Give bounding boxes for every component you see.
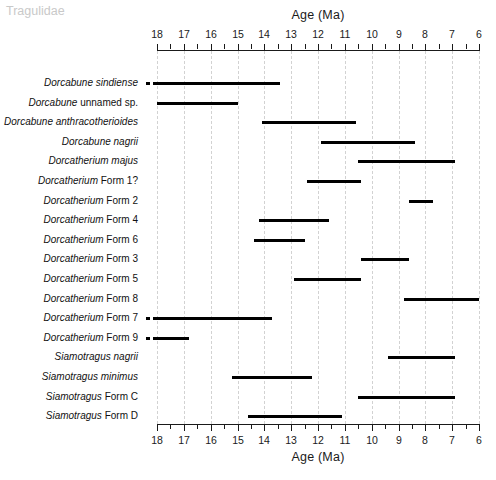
taxon-range-row: Dorcatherium Form 1? bbox=[0, 172, 496, 190]
taxon-range-row: Siamotragus minimus bbox=[0, 368, 496, 386]
plot-area: Dorcabune sindienseDorcabune unnamed sp.… bbox=[0, 51, 496, 424]
axis-tick-minor bbox=[251, 44, 252, 49]
taxon-range-row: Dorcatherium Form 5 bbox=[0, 270, 496, 288]
axis-tick-label: 13 bbox=[285, 28, 297, 40]
range-bar bbox=[404, 298, 479, 301]
taxon-range-row: Dorcatherium Form 3 bbox=[0, 250, 496, 268]
tick-labels-bottom: 1817161514131211109876 bbox=[0, 434, 496, 448]
axis-tick bbox=[399, 424, 400, 431]
range-bar bbox=[321, 141, 415, 144]
taxon-range-row: Siamotragus Form D bbox=[0, 407, 496, 425]
taxon-label: Dorcabune anthracotherioides bbox=[0, 113, 138, 131]
axis-tick bbox=[238, 424, 239, 431]
taxon-label: Dorcatherium Form 1? bbox=[0, 172, 138, 190]
taxon-range-row: Siamotragus Form C bbox=[0, 388, 496, 406]
axis-tick-label: 8 bbox=[422, 434, 428, 446]
axis-tick bbox=[479, 44, 480, 51]
axis-tick-label: 11 bbox=[340, 28, 351, 40]
taxon-label: Siamotragus nagrii bbox=[0, 348, 138, 366]
axis-tick-minor bbox=[197, 44, 198, 49]
range-bar bbox=[157, 317, 272, 320]
axis-tick bbox=[264, 424, 265, 431]
axis-tick-label: 17 bbox=[178, 434, 190, 446]
range-bar bbox=[157, 337, 189, 340]
range-bar bbox=[248, 415, 342, 418]
tick-labels-top: 1817161514131211109876 bbox=[0, 28, 496, 42]
range-bar bbox=[262, 121, 356, 124]
axis-tick-label: 17 bbox=[178, 28, 190, 40]
axis-tick-minor bbox=[385, 44, 386, 49]
axis-tick bbox=[479, 424, 480, 431]
axis-tick-label: 15 bbox=[232, 28, 244, 40]
taxon-label: Dorcabune unnamed sp. bbox=[0, 94, 138, 112]
taxon-label: Dorcatherium Form 3 bbox=[0, 250, 138, 268]
taxon-label: Dorcabune nagrii bbox=[0, 133, 138, 151]
taxon-range-row: Siamotragus nagrii bbox=[0, 348, 496, 366]
axis-tick-minor bbox=[466, 44, 467, 49]
taxon-range-row: Dorcabune sindiense bbox=[0, 74, 496, 92]
range-bar bbox=[361, 258, 409, 261]
axis-tick-label: 18 bbox=[151, 434, 163, 446]
range-bar bbox=[254, 239, 305, 242]
axis-tick-label: 11 bbox=[340, 434, 351, 446]
taxon-range-row: Dorcatherium Form 2 bbox=[0, 192, 496, 210]
axis-tick-label: 16 bbox=[205, 28, 217, 40]
range-bar bbox=[358, 396, 455, 399]
axis-tick bbox=[345, 424, 346, 431]
taxon-range-row: Dorcatherium Form 6 bbox=[0, 231, 496, 249]
axis-tick-label: 7 bbox=[449, 28, 455, 40]
range-bar bbox=[232, 376, 312, 379]
axis-tick-label: 9 bbox=[396, 28, 402, 40]
axis-tick bbox=[372, 424, 373, 431]
range-bar-inferred bbox=[146, 82, 157, 85]
axis-title-top: Age (Ma) bbox=[157, 8, 479, 22]
taxon-label: Dorcatherium Form 5 bbox=[0, 270, 138, 288]
axis-tick bbox=[211, 424, 212, 431]
axis-tick-minor bbox=[439, 44, 440, 49]
axis-tick-label: 12 bbox=[312, 28, 324, 40]
axis-tick-label: 13 bbox=[285, 434, 297, 446]
range-bar bbox=[259, 219, 329, 222]
taxon-range-row: Dorcabune unnamed sp. bbox=[0, 94, 496, 112]
axis-tick-minor bbox=[358, 44, 359, 49]
taxon-range-row: Dorcatherium majus bbox=[0, 152, 496, 170]
taxon-range-row: Dorcatherium Form 8 bbox=[0, 290, 496, 308]
tick-marks-bottom bbox=[0, 424, 496, 432]
taxon-range-row: Dorcatherium Form 4 bbox=[0, 211, 496, 229]
axis-tick-label: 6 bbox=[476, 434, 482, 446]
axis-tick bbox=[184, 424, 185, 431]
axis-tick-label: 12 bbox=[312, 434, 324, 446]
taxon-label: Dorcatherium Form 6 bbox=[0, 231, 138, 249]
axis-line-bottom bbox=[157, 424, 479, 425]
taxon-label: Dorcatherium majus bbox=[0, 152, 138, 170]
taxon-range-row: Dorcatherium Form 7 bbox=[0, 309, 496, 327]
axis-tick bbox=[157, 424, 158, 431]
axis-title-bottom: Age (Ma) bbox=[157, 450, 479, 464]
axis-tick-label: 7 bbox=[449, 434, 455, 446]
axis-tick-minor bbox=[331, 44, 332, 49]
axis-tick-minor bbox=[224, 44, 225, 49]
taxon-label: Siamotragus Form D bbox=[0, 407, 138, 425]
axis-tick-label: 9 bbox=[396, 434, 402, 446]
range-bar bbox=[307, 180, 361, 183]
taxon-label: Siamotragus Form C bbox=[0, 388, 138, 406]
taxon-range-row: Dorcabune anthracotherioides bbox=[0, 113, 496, 131]
range-bar bbox=[409, 200, 433, 203]
taxon-label: Dorcatherium Form 9 bbox=[0, 329, 138, 347]
range-bar bbox=[157, 102, 238, 105]
range-bar-inferred bbox=[146, 337, 157, 340]
axis-tick bbox=[318, 424, 319, 431]
axis-tick bbox=[291, 424, 292, 431]
axis-tick-label: 15 bbox=[232, 434, 244, 446]
axis-tick-label: 14 bbox=[258, 28, 270, 40]
axis-tick-label: 6 bbox=[476, 28, 482, 40]
axis-tick-label: 16 bbox=[205, 434, 217, 446]
axis-tick-label: 8 bbox=[422, 28, 428, 40]
axis-tick-minor bbox=[305, 44, 306, 49]
range-bar bbox=[157, 82, 280, 85]
axis-tick-minor bbox=[412, 44, 413, 49]
axis-tick-minor bbox=[278, 44, 279, 49]
axis-tick-minor bbox=[170, 44, 171, 49]
group-header-tragulidae: Tragulidae bbox=[6, 4, 65, 18]
taxon-label: Dorcatherium Form 8 bbox=[0, 290, 138, 308]
